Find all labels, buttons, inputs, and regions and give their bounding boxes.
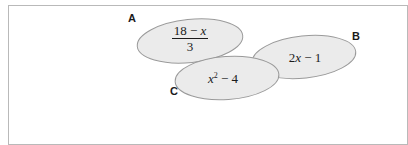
expression-b-tail: − 1	[301, 50, 321, 65]
ellipse-label-a: A	[128, 13, 136, 24]
expression-a-denominator: 3	[162, 39, 218, 53]
ellipse-label-b: B	[352, 31, 360, 42]
expression-b: 2x − 1	[278, 51, 332, 64]
ellipse-label-c: C	[170, 86, 178, 97]
expression-a-numerator-text: 18 −	[174, 23, 201, 38]
expression-a-numerator: 18 − x	[162, 24, 218, 38]
expression-a-numerator-variable: x	[201, 23, 207, 38]
figure-root: A B C 18 − x 3 2x − 1 x2 − 4	[0, 0, 376, 105]
expression-c: x2 − 4	[198, 72, 248, 85]
expression-a-fraction: 18 − x 3	[162, 24, 218, 53]
expression-c-tail: − 4	[218, 71, 238, 86]
